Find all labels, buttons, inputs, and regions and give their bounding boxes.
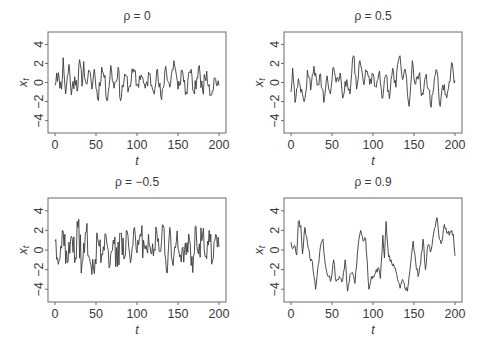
- x-tick-label: 150: [404, 307, 425, 321]
- panel-title: ρ = 0.9: [354, 175, 392, 189]
- y-tick-label: 2: [268, 227, 282, 234]
- plot-rho-0.9: ρ = 0.9050100150200−4−2024txt: [0, 0, 477, 344]
- y-axis-label: xt: [252, 245, 267, 255]
- x-tick-label: 50: [325, 307, 339, 321]
- panel-rho-0.9: ρ = 0.9050100150200−4−2024txt: [0, 0, 477, 344]
- series-line: [291, 218, 455, 292]
- y-tick-label: 4: [268, 207, 282, 214]
- y-tick-label: 0: [268, 246, 282, 253]
- y-tick-label: −4: [268, 282, 282, 296]
- y-tick-label: −2: [268, 262, 282, 276]
- x-tick-label: 100: [363, 307, 384, 321]
- x-tick-label: 200: [445, 307, 466, 321]
- x-tick-label: 0: [288, 307, 295, 321]
- x-axis-label: t: [371, 323, 375, 337]
- plot-frame: [284, 198, 462, 302]
